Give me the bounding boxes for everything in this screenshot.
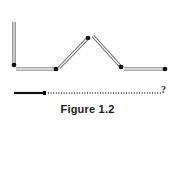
solid-line-head — [43, 91, 46, 95]
matchstick-body — [93, 36, 121, 67]
matchstick-head — [12, 63, 17, 67]
matchstick-head — [86, 36, 91, 40]
matchstick-body — [59, 37, 89, 68]
matchstick-head — [163, 67, 168, 71]
matchstick-head — [119, 65, 124, 69]
question-mark: ? — [161, 84, 166, 95]
matchstick-head — [54, 67, 59, 71]
figure-caption: Figure 1.2 — [0, 103, 175, 115]
matchstick-figure — [0, 0, 175, 170]
